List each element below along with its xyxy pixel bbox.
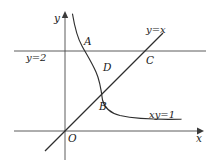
math-figure: y x O y=2 y=x xy=1 A B C D <box>0 0 212 167</box>
point-label-a: A <box>84 36 92 47</box>
x-axis-label: x <box>196 133 202 144</box>
label-curve-xy-equals-1: xy=1 <box>149 110 175 120</box>
label-line-y-equals-2: y=2 <box>26 53 46 63</box>
origin-label: O <box>68 133 77 144</box>
label-line-y-equals-x: y=x <box>146 25 166 35</box>
y-axis-arrow-icon <box>62 11 68 18</box>
y-axis-label: y <box>54 13 60 24</box>
point-label-c: C <box>146 55 154 66</box>
figure-canvas <box>0 0 212 167</box>
region-label-d: D <box>103 62 111 73</box>
point-label-b: B <box>99 101 107 112</box>
